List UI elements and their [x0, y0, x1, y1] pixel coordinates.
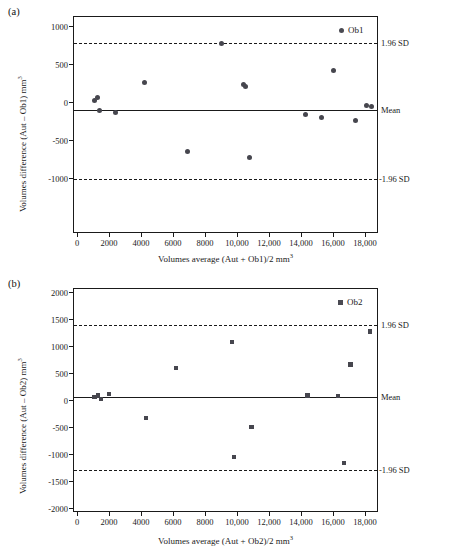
- panel-b-y-tick-1000: 1000: [36, 342, 68, 352]
- panel-a-x-tickmark-18000: [365, 233, 366, 237]
- panel-b-y-tick-1500: 1500: [36, 315, 68, 325]
- panel-b-x-tick-18000: 18,000: [348, 517, 382, 527]
- panel-a-mean-label: Mean: [381, 105, 400, 115]
- panel-b-y-tick-neg2000: -2000: [36, 504, 68, 514]
- panel-b-plot-area: [73, 288, 378, 512]
- panel-a-x-tick-10000: 10,000: [220, 238, 254, 248]
- data-point: [95, 95, 100, 100]
- data-point: [142, 80, 147, 85]
- data-point: [99, 397, 104, 402]
- panel-b-x-tickmark-2000: [109, 512, 110, 516]
- panel-b-y-tickmark-1000: [69, 346, 73, 347]
- panel-b-y-tick-0: 0: [36, 396, 68, 406]
- panel-b-x-tick-14000: 14,000: [284, 517, 318, 527]
- panel-b-upper-sd-line: [74, 325, 377, 326]
- panel-b-x-tick-12000: 12,000: [252, 517, 286, 527]
- panel-a-y-tick-1000: 1000: [36, 22, 68, 32]
- panel-b-x-tickmark-14000: [301, 512, 302, 516]
- panel-b-x-axis-title: Volumes average (Aut + Ob2)/2 mm3: [118, 534, 333, 546]
- panel-a-x-tick-16000: 16,000: [316, 238, 350, 248]
- panel-a-y-tick-0: 0: [36, 98, 68, 108]
- data-point: [305, 393, 310, 398]
- panel-b-y-tickmark-0: [69, 400, 73, 401]
- panel-a-legend-label: Ob1: [348, 25, 364, 35]
- data-point: [369, 104, 374, 109]
- data-point: [342, 461, 347, 466]
- data-point: [174, 366, 179, 371]
- data-point: [353, 118, 358, 123]
- data-point: [336, 394, 341, 399]
- panel-b-x-tick-6000: 6000: [158, 517, 188, 527]
- panel-a: (a) Volumes difference (Aut – Ob1) mm3 1…: [0, 0, 451, 268]
- panel-b-y-axis-title: Volumes difference (Aut – Ob2) mm3: [16, 358, 28, 494]
- data-point: [249, 425, 254, 430]
- panel-b-y-tickmark-neg500: [69, 427, 73, 428]
- data-point: [113, 110, 118, 115]
- panel-a-y-tickmark-500: [69, 64, 73, 65]
- panel-b-x-tick-10000: 10,000: [220, 517, 254, 527]
- panel-a-x-tick-14000: 14,000: [284, 238, 318, 248]
- panel-b-x-tick-2000: 2000: [94, 517, 124, 527]
- panel-a-x-tickmark-6000: [173, 233, 174, 237]
- panel-a-x-tick-18000: 18,000: [348, 238, 382, 248]
- panel-a-lower-sd-label: -1.96 SD: [379, 174, 410, 184]
- panel-a-y-axis-title: Volumes difference (Aut – Ob1) mm3: [16, 76, 28, 212]
- panel-b-x-tickmark-6000: [173, 512, 174, 516]
- panel-b-x-tickmark-10000: [237, 512, 238, 516]
- data-point: [232, 455, 237, 460]
- data-point: [185, 149, 190, 154]
- panel-b-y-tickmark-500: [69, 373, 73, 374]
- panel-a-y-tickmark-0: [69, 102, 73, 103]
- panel-b-legend-label: Ob2: [347, 297, 363, 307]
- panel-a-y-tickmark-1000: [69, 26, 73, 27]
- legend-square-marker-icon: [338, 300, 343, 305]
- data-point: [97, 108, 102, 113]
- panel-a-x-axis-title: Volumes average (Aut + Ob1)/2 mm3: [118, 252, 333, 264]
- panel-a-label: (a): [8, 6, 20, 17]
- panel-b-y-tick-2000: 2000: [36, 288, 68, 298]
- panel-b-y-tickmark-2000: [69, 292, 73, 293]
- panel-a-x-tickmark-12000: [269, 233, 270, 237]
- panel-a-upper-sd-label: 1.96 SD: [381, 38, 409, 48]
- panel-b-y-tick-neg1000: -1000: [36, 450, 68, 460]
- panel-b-x-tickmark-8000: [205, 512, 206, 516]
- data-point: [219, 41, 224, 46]
- panel-a-upper-sd-line: [74, 43, 377, 44]
- panel-a-mean-line: [74, 110, 377, 111]
- panel-a-y-tick-neg1000: -1000: [36, 174, 68, 184]
- panel-a-y-tickmark-neg1000: [69, 178, 73, 179]
- panel-a-x-tickmark-14000: [301, 233, 302, 237]
- legend-circle-marker-icon: [339, 28, 344, 33]
- panel-a-x-tick-4000: 4000: [126, 238, 156, 248]
- panel-b-upper-sd-label: 1.96 SD: [381, 320, 409, 330]
- panel-b-x-tickmark-0: [77, 512, 78, 516]
- panel-b-mean-label: Mean: [381, 392, 400, 402]
- panel-a-x-tickmark-4000: [141, 233, 142, 237]
- panel-a-legend: Ob1: [339, 25, 364, 35]
- panel-a-x-tick-0: 0: [62, 238, 92, 248]
- panel-b-legend: Ob2: [338, 297, 363, 307]
- panel-b-mean-line: [74, 397, 377, 398]
- data-point: [331, 68, 336, 73]
- data-point: [243, 84, 248, 89]
- panel-b-y-tick-neg500: -500: [36, 423, 68, 433]
- panel-a-x-tickmark-0: [77, 233, 78, 237]
- panel-b-lower-sd-label: -1.96 SD: [379, 465, 410, 475]
- panel-a-y-tickmark-neg500: [69, 140, 73, 141]
- panel-b-x-tick-0: 0: [62, 517, 92, 527]
- panel-b-label: (b): [8, 278, 20, 289]
- panel-b-x-tick-16000: 16,000: [316, 517, 350, 527]
- panel-a-y-tick-500: 500: [36, 60, 68, 70]
- panel-a-x-tickmark-8000: [205, 233, 206, 237]
- data-point: [107, 392, 112, 397]
- panel-a-x-tick-8000: 8000: [190, 238, 220, 248]
- panel-a-lower-sd-line: [74, 179, 377, 180]
- panel-b-lower-sd-line: [74, 470, 377, 471]
- panel-b-y-tickmark-neg1000: [69, 454, 73, 455]
- data-point: [368, 329, 373, 334]
- panel-a-y-tick-neg500: -500: [36, 136, 68, 146]
- data-point: [144, 416, 149, 421]
- panel-b-x-tickmark-4000: [141, 512, 142, 516]
- panel-b-x-tickmark-16000: [333, 512, 334, 516]
- panel-a-x-tickmark-16000: [333, 233, 334, 237]
